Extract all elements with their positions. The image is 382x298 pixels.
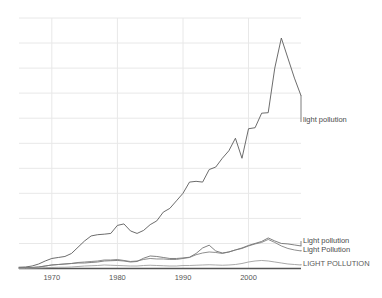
series-annotation-light-pollution-lower: light pollution (303, 115, 347, 124)
x-tick-label-2000: 2000 (240, 273, 257, 282)
series-label-light-pollution-mixed: Light pollution (303, 236, 349, 245)
series-label-light-pollution-caps: LIGHT POLLUTION (303, 259, 370, 268)
x-tick-label-1970: 1970 (43, 273, 60, 282)
x-tick-label-1980: 1980 (109, 273, 126, 282)
ngram-chart-svg: 1970198019902000 light pollution Light p… (0, 0, 382, 298)
x-tick-label-1990: 1990 (175, 273, 192, 282)
series-label-light-pollution-title: Light Pollution (303, 245, 350, 254)
ngram-chart-container: 1970198019902000 light pollution Light p… (0, 0, 382, 298)
